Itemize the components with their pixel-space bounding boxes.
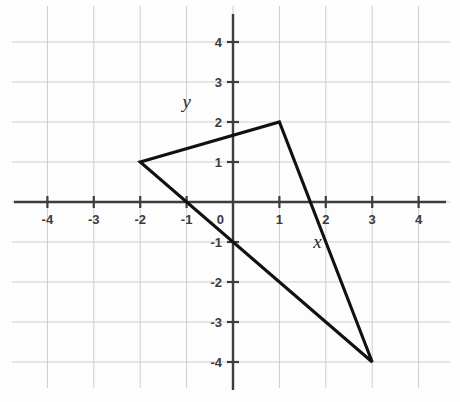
x-tick-label: 1 xyxy=(276,212,283,227)
y-tick-label: -4 xyxy=(210,355,222,370)
x-tick-label: -1 xyxy=(181,212,193,227)
y-tick-label: -3 xyxy=(210,315,222,330)
x-tick-label: -3 xyxy=(88,212,100,227)
x-axis-label: x xyxy=(312,231,322,252)
y-axis-label: y xyxy=(180,91,191,112)
y-tick-label: -1 xyxy=(210,235,222,250)
y-tick-label: 1 xyxy=(215,155,222,170)
y-tick-label: -2 xyxy=(210,275,222,290)
x-tick-label: 4 xyxy=(415,212,423,227)
x-tick-label: -2 xyxy=(134,212,146,227)
x-tick-label: 3 xyxy=(369,212,376,227)
x-tick-label: -4 xyxy=(42,212,54,227)
plot-canvas: -4-3-2-101234 4321-1-2-3-4 x y xyxy=(0,0,460,402)
x-tick-label: 0 xyxy=(217,212,224,227)
y-tick-label: 2 xyxy=(215,115,222,130)
y-tick-label: 3 xyxy=(215,75,222,90)
x-tick-label: 2 xyxy=(322,212,329,227)
coordinate-plane-figure: -4-3-2-101234 4321-1-2-3-4 x y xyxy=(0,0,460,402)
y-tick-label: 4 xyxy=(215,35,223,50)
